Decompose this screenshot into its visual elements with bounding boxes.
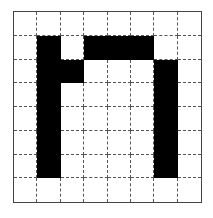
empty-cell bbox=[108, 107, 131, 131]
filled-cell bbox=[37, 155, 60, 179]
empty-cell bbox=[14, 178, 37, 202]
empty-cell bbox=[154, 12, 177, 36]
empty-cell bbox=[178, 12, 201, 36]
empty-cell bbox=[178, 178, 201, 202]
empty-cell bbox=[108, 155, 131, 179]
empty-cell bbox=[178, 60, 201, 84]
empty-cell bbox=[131, 107, 154, 131]
empty-cell bbox=[14, 12, 37, 36]
empty-cell bbox=[84, 107, 107, 131]
filled-cell bbox=[37, 60, 60, 84]
empty-cell bbox=[131, 155, 154, 179]
empty-cell bbox=[178, 131, 201, 155]
filled-cell bbox=[37, 131, 60, 155]
empty-cell bbox=[154, 36, 177, 60]
empty-cell bbox=[154, 178, 177, 202]
filled-cell bbox=[154, 83, 177, 107]
empty-cell bbox=[61, 107, 84, 131]
empty-cell bbox=[61, 12, 84, 36]
empty-cell bbox=[131, 131, 154, 155]
pixel-grid bbox=[13, 11, 202, 203]
filled-cell bbox=[154, 60, 177, 84]
filled-cell bbox=[37, 107, 60, 131]
empty-cell bbox=[61, 83, 84, 107]
filled-cell bbox=[84, 36, 107, 60]
empty-cell bbox=[14, 131, 37, 155]
filled-cell bbox=[154, 155, 177, 179]
empty-cell bbox=[61, 131, 84, 155]
empty-cell bbox=[178, 155, 201, 179]
empty-cell bbox=[84, 83, 107, 107]
empty-cell bbox=[131, 12, 154, 36]
empty-cell bbox=[178, 107, 201, 131]
filled-cell bbox=[61, 60, 84, 84]
empty-cell bbox=[108, 60, 131, 84]
empty-cell bbox=[178, 83, 201, 107]
empty-cell bbox=[37, 12, 60, 36]
empty-cell bbox=[108, 83, 131, 107]
empty-cell bbox=[84, 155, 107, 179]
empty-cell bbox=[131, 60, 154, 84]
filled-cell bbox=[154, 131, 177, 155]
empty-cell bbox=[108, 12, 131, 36]
empty-cell bbox=[61, 178, 84, 202]
empty-cell bbox=[108, 178, 131, 202]
empty-cell bbox=[84, 12, 107, 36]
filled-cell bbox=[108, 36, 131, 60]
empty-cell bbox=[84, 131, 107, 155]
empty-cell bbox=[84, 178, 107, 202]
empty-cell bbox=[131, 178, 154, 202]
empty-cell bbox=[61, 155, 84, 179]
filled-cell bbox=[37, 36, 60, 60]
filled-cell bbox=[154, 107, 177, 131]
empty-cell bbox=[14, 36, 37, 60]
empty-cell bbox=[14, 107, 37, 131]
empty-cell bbox=[84, 60, 107, 84]
empty-cell bbox=[14, 155, 37, 179]
empty-cell bbox=[61, 36, 84, 60]
filled-cell bbox=[131, 36, 154, 60]
empty-cell bbox=[14, 60, 37, 84]
empty-cell bbox=[37, 178, 60, 202]
empty-cell bbox=[178, 36, 201, 60]
empty-cell bbox=[14, 83, 37, 107]
filled-cell bbox=[37, 83, 60, 107]
empty-cell bbox=[108, 131, 131, 155]
empty-cell bbox=[131, 83, 154, 107]
